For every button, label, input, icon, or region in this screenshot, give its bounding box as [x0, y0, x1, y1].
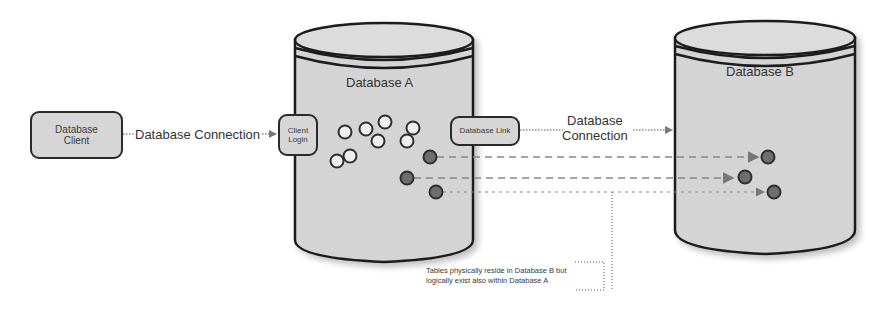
annotation-line1: Tables physically reside in Database B b… — [426, 266, 567, 276]
database-b-cylinder — [675, 21, 855, 254]
linked-table-icon — [401, 172, 414, 185]
database-a-title: Database A — [346, 75, 413, 90]
table-icon — [360, 123, 373, 136]
link-connection-label: Database Connection — [562, 114, 628, 144]
table-icon — [401, 135, 414, 148]
table-icon — [407, 122, 420, 135]
link-connection-label-line1: Database — [562, 114, 628, 129]
table-icon — [379, 116, 392, 129]
database-client-box[interactable]: Database Client — [30, 111, 123, 159]
client-connection-label: Database Connection — [135, 127, 260, 142]
table-icon — [768, 186, 781, 199]
table-icon — [762, 151, 775, 164]
annotation-line2: logically exist also within Database A — [426, 276, 567, 286]
annotation-text: Tables physically reside in Database B b… — [426, 266, 567, 286]
table-icon — [739, 171, 752, 184]
database-client-label-line2: Client — [64, 135, 90, 147]
link-connection-label-line2: Connection — [562, 129, 628, 144]
database-b-title: Database B — [726, 64, 794, 79]
database-link-label: Database Link — [459, 126, 510, 135]
linked-table-icon — [424, 151, 437, 164]
table-icon — [331, 155, 344, 168]
linked-table-icon — [430, 186, 443, 199]
table-icon — [339, 126, 352, 139]
client-login-box[interactable]: Client Login — [278, 114, 318, 156]
client-login-label-line2: Login — [288, 135, 308, 144]
table-icon — [372, 135, 385, 148]
table-icon — [344, 150, 357, 163]
client-login-label-line1: Client — [288, 126, 308, 135]
database-client-label-line1: Database — [55, 124, 98, 136]
database-link-box[interactable]: Database Link — [450, 116, 520, 146]
annotation-bracket — [575, 262, 604, 290]
